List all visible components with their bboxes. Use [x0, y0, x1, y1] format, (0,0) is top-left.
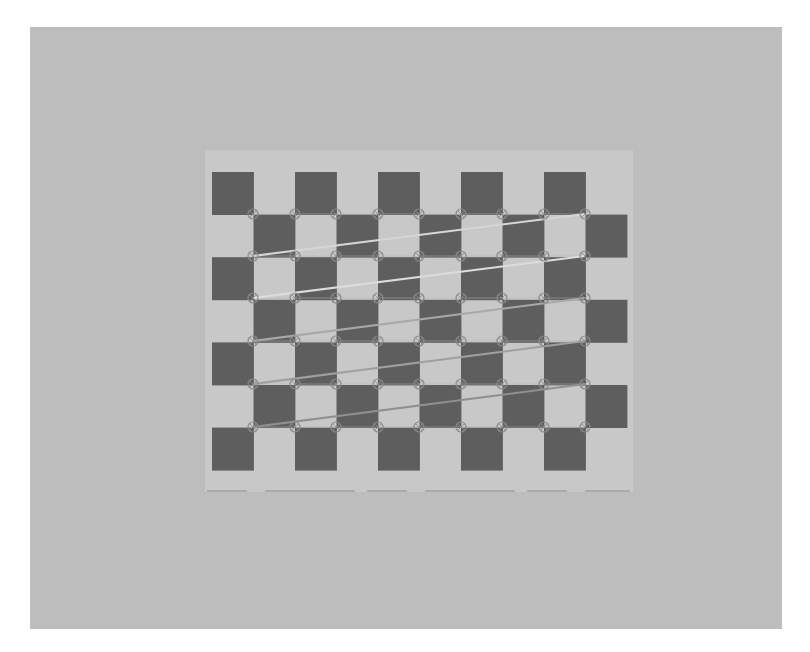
- dark-square: [461, 257, 503, 300]
- dark-square: [378, 428, 420, 471]
- dark-square: [378, 172, 420, 215]
- dark-square: [420, 215, 462, 258]
- dark-square: [544, 257, 586, 300]
- dark-square: [295, 172, 337, 215]
- dark-square: [295, 428, 337, 471]
- dark-square: [544, 428, 586, 471]
- dark-square: [212, 257, 254, 300]
- calibration-scene: [0, 0, 810, 652]
- dark-square: [461, 172, 503, 215]
- dark-square: [212, 428, 254, 471]
- dark-square: [461, 428, 503, 471]
- dark-square: [420, 300, 462, 343]
- dark-square: [337, 215, 379, 258]
- dark-square: [212, 342, 254, 385]
- image-canvas: Checkerboard calibration target with det…: [0, 0, 810, 652]
- dark-square: [295, 342, 337, 385]
- dark-square: [420, 385, 462, 428]
- dark-square: [337, 385, 379, 428]
- dark-square: [212, 172, 254, 215]
- dark-square: [337, 300, 379, 343]
- dark-square: [586, 215, 628, 258]
- dark-square: [586, 385, 628, 428]
- dark-square: [461, 342, 503, 385]
- dark-square: [586, 300, 628, 343]
- dark-square: [544, 342, 586, 385]
- dark-square: [295, 257, 337, 300]
- dark-square: [544, 172, 586, 215]
